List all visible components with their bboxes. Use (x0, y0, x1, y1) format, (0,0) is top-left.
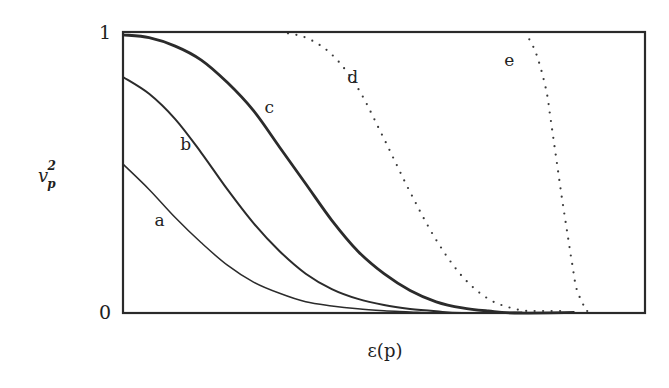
series-d-dot-43 (500, 304, 502, 306)
series-line-d (279, 31, 562, 312)
x-axis-label: ε(p) (368, 340, 403, 361)
series-d-dot-30 (427, 225, 429, 227)
series-d-dot-25 (407, 187, 409, 189)
series-e-dot-2 (532, 46, 534, 48)
series-e-dot-25 (567, 238, 569, 240)
series-e-dot-34 (586, 310, 588, 312)
series-d-dot-6 (325, 49, 327, 51)
series-d-dot-8 (338, 61, 340, 63)
series-e-dot-30 (574, 280, 576, 282)
series-e-dot-4 (538, 62, 540, 64)
series-e-dot-26 (568, 246, 570, 248)
series-e-dot-12 (551, 128, 553, 130)
series-d-dot-20 (388, 149, 390, 151)
series-d-dot-5 (319, 44, 321, 46)
series-d-dot-17 (377, 126, 379, 128)
series-d-dot-23 (399, 172, 401, 174)
plot-frame (123, 32, 645, 313)
series-e-dot-24 (566, 229, 568, 231)
series-d-dot-3 (303, 36, 305, 38)
series-e-dot-13 (552, 137, 554, 139)
series-e-dot-19 (559, 187, 561, 189)
series-d-dot-37 (460, 274, 462, 276)
series-d-dot-14 (366, 103, 368, 105)
series-d-dot-35 (449, 260, 451, 262)
curve-label-c: c (264, 97, 274, 117)
series-d-dot-41 (485, 296, 487, 298)
series-d-dot-32 (435, 239, 437, 241)
series-e-dot-17 (557, 170, 559, 172)
series-e-dot-22 (563, 212, 565, 214)
series-d-dot-50 (559, 310, 561, 312)
series-d-dot-34 (445, 254, 447, 256)
series-d-dot-9 (343, 67, 345, 69)
series-d-dot-19 (385, 141, 387, 143)
series-d-dot-21 (392, 156, 394, 158)
series-d-dot-38 (466, 280, 468, 282)
series-d-dot-33 (440, 246, 442, 248)
chart: 0 1 abcde vp2 ε(p) (0, 0, 669, 388)
series-d-dot-15 (370, 111, 372, 113)
series-e-dot-21 (562, 204, 564, 206)
series-e-dot-33 (582, 304, 584, 306)
series-d-dot-22 (396, 164, 398, 166)
series-d-dot-42 (493, 301, 495, 303)
series-d-dot-7 (332, 54, 334, 56)
series-e-dot-14 (553, 145, 555, 147)
series-e-dot-31 (576, 288, 578, 290)
series-d-dot-12 (357, 88, 359, 90)
y-axis-label-superscript: 2 (47, 159, 56, 173)
series-e-dot-28 (571, 263, 573, 265)
series-e-dot-10 (549, 111, 551, 113)
series-d-dot-2 (295, 34, 297, 36)
series-e-dot-8 (546, 95, 548, 97)
y-axis-label: vp2 (38, 159, 56, 191)
series-e-dot-32 (579, 296, 581, 298)
series-d-dot-16 (373, 118, 375, 120)
series-d-dot-47 (534, 310, 536, 312)
series-d-dot-4 (311, 40, 313, 42)
series-d-dot-18 (381, 134, 383, 136)
series-line-b (123, 77, 522, 313)
series-e-dot-15 (555, 154, 557, 156)
series-e-dot-3 (535, 54, 537, 56)
curve-label-b: b (180, 134, 191, 154)
series-e-dot-1 (528, 38, 530, 40)
series-e-dot-9 (548, 103, 550, 105)
series-e-dot-6 (543, 78, 545, 80)
series-e-dot-18 (558, 179, 560, 181)
curve-labels-layer: abcde (154, 50, 514, 230)
series-d-dot-31 (431, 232, 433, 234)
series-e-dot-20 (561, 196, 563, 198)
series-d-dot-27 (415, 202, 417, 204)
series-d-dot-46 (525, 310, 527, 312)
curve-label-a: a (154, 210, 164, 230)
series-e-dot-23 (565, 221, 567, 223)
series-line-a (123, 164, 496, 313)
series-e-dot-29 (572, 271, 574, 273)
series-d-dot-45 (517, 309, 519, 311)
series-d-dot-24 (403, 179, 405, 181)
series-d-dot-13 (362, 96, 364, 98)
series-d-dot-39 (472, 286, 474, 288)
y-tick-label-0: 0 (99, 301, 111, 323)
curve-label-e: e (504, 50, 514, 70)
series-d-dot-29 (423, 217, 425, 219)
series-d-dot-26 (411, 195, 413, 197)
curve-label-d: d (347, 67, 358, 87)
series-e-dot-16 (556, 162, 558, 164)
series-d-dot-40 (478, 292, 480, 294)
series-d-dot-36 (455, 267, 457, 269)
series-d-dot-49 (551, 310, 553, 312)
series-e-dot-7 (545, 86, 547, 88)
y-axis-label-subscript: p (47, 177, 56, 191)
series-d-dot-48 (542, 310, 544, 312)
series-d-dot-28 (419, 210, 421, 212)
y-tick-label-1: 1 (99, 21, 111, 43)
series-e-dot-27 (570, 254, 572, 256)
series-e-dot-5 (540, 70, 542, 72)
series-d-dot-44 (508, 306, 510, 308)
series-line-e (524, 31, 589, 312)
series-e-dot-11 (550, 120, 552, 122)
